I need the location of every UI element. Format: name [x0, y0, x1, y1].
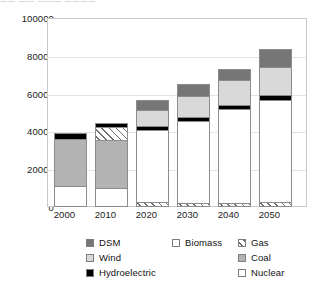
y-tick-label-20000: 20000: [0, 165, 54, 174]
segment-2040-dsm: [218, 69, 251, 80]
legend-item-hydroelectric[interactable]: Hydroelectric: [86, 265, 156, 280]
bar-2030: [177, 84, 210, 207]
top-cutoff-artifact: —— —— ——— ————: [0, 0, 326, 7]
segment-2050-dsm: [259, 49, 292, 67]
segment-2000-nuclear: [54, 186, 87, 207]
segment-2030-gas: [177, 203, 210, 207]
segment-2020-gas: [136, 202, 169, 207]
segment-2010-gas: [95, 127, 128, 140]
segment-2050-gas: [259, 202, 292, 207]
bar-2000: [54, 133, 87, 207]
legend-item-wind[interactable]: Wind: [86, 250, 156, 265]
legend-column-2: Biomass: [172, 235, 222, 250]
legend-label-dsm: DSM: [99, 238, 120, 248]
y-tick-label-80000: 80000: [0, 52, 54, 61]
segment-2030-dsm: [177, 84, 210, 96]
segment-2050-wind: [259, 67, 292, 95]
legend-label-hydroelectric: Hydroelectric: [99, 268, 156, 278]
bar-2040: [218, 69, 251, 207]
segment-2040-wind: [218, 80, 251, 104]
x-tick-label-2050: 2050: [240, 210, 300, 220]
segment-2010-nuclear: [95, 188, 128, 207]
segment-2020-dsm: [136, 100, 169, 110]
segment-2000-coal: [54, 139, 87, 186]
legend-item-coal[interactable]: Coal: [238, 250, 284, 265]
hydroelectric-swatch-icon: [86, 269, 94, 277]
segment-2040-gas: [218, 203, 251, 207]
bar-2020: [136, 100, 169, 207]
biomass-swatch-icon: [172, 239, 180, 247]
legend-label-wind: Wind: [99, 253, 121, 263]
bar-2010: [95, 120, 128, 207]
segment-2030-biomass: [177, 121, 210, 204]
segment-2010-coal: [95, 140, 128, 188]
nuclear-swatch-icon: [238, 269, 246, 277]
legend-item-nuclear[interactable]: Nuclear: [238, 265, 284, 280]
wind-swatch-icon: [86, 254, 94, 262]
segment-2020-wind: [136, 110, 169, 126]
legend-column-3: Gas Coal Nuclear: [238, 235, 284, 280]
legend-item-gas[interactable]: Gas: [238, 235, 284, 250]
y-tick-label-40000: 40000: [0, 127, 54, 136]
legend-label-biomass: Biomass: [185, 238, 222, 248]
legend-label-gas: Gas: [251, 238, 269, 248]
coal-swatch-icon: [238, 254, 246, 262]
dsm-swatch-icon: [86, 239, 94, 247]
segment-2020-biomass: [136, 130, 169, 202]
legend-item-dsm[interactable]: DSM: [86, 235, 156, 250]
segment-2050-biomass: [259, 100, 292, 202]
chart-legend: DSM Wind Hydroelectric Biomass Gas: [86, 235, 316, 281]
legend-label-nuclear: Nuclear: [251, 268, 284, 278]
y-tick-label-60000: 60000: [0, 90, 54, 99]
y-tick-label-100000: 100000: [0, 14, 54, 23]
legend-item-biomass[interactable]: Biomass: [172, 235, 222, 250]
stacked-bar-chart-figure: —— —— ——— ———— 100000 80000 60000 40000 …: [0, 0, 326, 284]
gas-swatch-icon: [238, 239, 246, 247]
segment-2030-wind: [177, 96, 210, 117]
segment-2040-biomass: [218, 109, 251, 203]
bar-2050: [259, 49, 292, 207]
legend-column-1: DSM Wind Hydroelectric: [86, 235, 156, 280]
legend-label-coal: Coal: [251, 253, 271, 263]
bar-group: [48, 19, 306, 207]
